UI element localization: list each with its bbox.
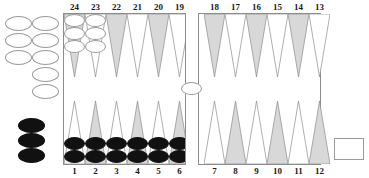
- bearoff-tray[interactable]: [334, 138, 364, 160]
- pip-label-6: 6: [169, 166, 190, 176]
- point-8[interactable]: [225, 101, 246, 164]
- checker-white-point-24[interactable]: [64, 14, 85, 27]
- point-13[interactable]: [309, 14, 330, 77]
- offboard-checker-white[interactable]: [5, 50, 32, 65]
- checker-black-point-1[interactable]: [64, 150, 85, 163]
- pip-label-22: 22: [106, 2, 127, 12]
- point-17[interactable]: [225, 14, 246, 77]
- offboard-checker-white[interactable]: [32, 16, 59, 31]
- point-9[interactable]: [246, 101, 267, 164]
- pip-label-17: 17: [225, 2, 246, 12]
- offboard-checker-white[interactable]: [32, 50, 59, 65]
- offboard-checker-black[interactable]: [18, 118, 45, 133]
- point-20[interactable]: [148, 14, 169, 77]
- pip-label-23: 23: [85, 2, 106, 12]
- offboard-checker-black[interactable]: [18, 133, 45, 148]
- pip-label-8: 8: [225, 166, 246, 176]
- pip-label-5: 5: [148, 166, 169, 176]
- checker-white-point-23[interactable]: [85, 27, 106, 40]
- backgammon-board: 242322212019181716151413 123456789101112: [0, 0, 369, 178]
- pip-label-9: 9: [246, 166, 267, 176]
- pip-label-11: 11: [288, 166, 309, 176]
- pip-label-20: 20: [148, 2, 169, 12]
- offboard-checker-white[interactable]: [32, 67, 59, 82]
- offboard-checker-black[interactable]: [18, 148, 45, 163]
- checker-black-point-4[interactable]: [127, 137, 148, 150]
- pip-label-10: 10: [267, 166, 288, 176]
- checker-black-point-3[interactable]: [106, 150, 127, 163]
- checker-black-point-1[interactable]: [64, 137, 85, 150]
- point-7[interactable]: [204, 101, 225, 164]
- offboard-checker-white[interactable]: [5, 16, 32, 31]
- bar-checker-white[interactable]: [181, 82, 202, 95]
- pip-label-3: 3: [106, 166, 127, 176]
- point-21[interactable]: [127, 14, 148, 77]
- pip-label-14: 14: [288, 2, 309, 12]
- checker-black-point-3[interactable]: [106, 137, 127, 150]
- offboard-checker-white[interactable]: [5, 33, 32, 48]
- point-12[interactable]: [309, 101, 330, 164]
- checker-white-point-23[interactable]: [85, 14, 106, 27]
- point-14[interactable]: [288, 14, 309, 77]
- pip-label-19: 19: [169, 2, 190, 12]
- point-11[interactable]: [288, 101, 309, 164]
- point-16[interactable]: [246, 14, 267, 77]
- offboard-checker-white[interactable]: [32, 84, 59, 99]
- checker-black-point-2[interactable]: [85, 150, 106, 163]
- pip-label-24: 24: [64, 2, 85, 12]
- pip-label-7: 7: [204, 166, 225, 176]
- pip-label-4: 4: [127, 166, 148, 176]
- point-22[interactable]: [106, 14, 127, 77]
- pip-label-15: 15: [267, 2, 288, 12]
- pip-label-12: 12: [309, 166, 330, 176]
- checker-white-point-24[interactable]: [64, 40, 85, 53]
- checker-black-point-5[interactable]: [148, 137, 169, 150]
- checker-black-point-2[interactable]: [85, 137, 106, 150]
- pip-label-2: 2: [85, 166, 106, 176]
- pip-label-13: 13: [309, 2, 330, 12]
- pip-label-1: 1: [64, 166, 85, 176]
- checker-black-point-4[interactable]: [127, 150, 148, 163]
- pip-label-16: 16: [246, 2, 267, 12]
- pip-label-21: 21: [127, 2, 148, 12]
- offboard-checker-white[interactable]: [32, 33, 59, 48]
- checker-white-point-24[interactable]: [64, 27, 85, 40]
- checker-white-point-23[interactable]: [85, 40, 106, 53]
- point-10[interactable]: [267, 101, 288, 164]
- point-18[interactable]: [204, 14, 225, 77]
- pip-label-18: 18: [204, 2, 225, 12]
- point-15[interactable]: [267, 14, 288, 77]
- checker-black-point-5[interactable]: [148, 150, 169, 163]
